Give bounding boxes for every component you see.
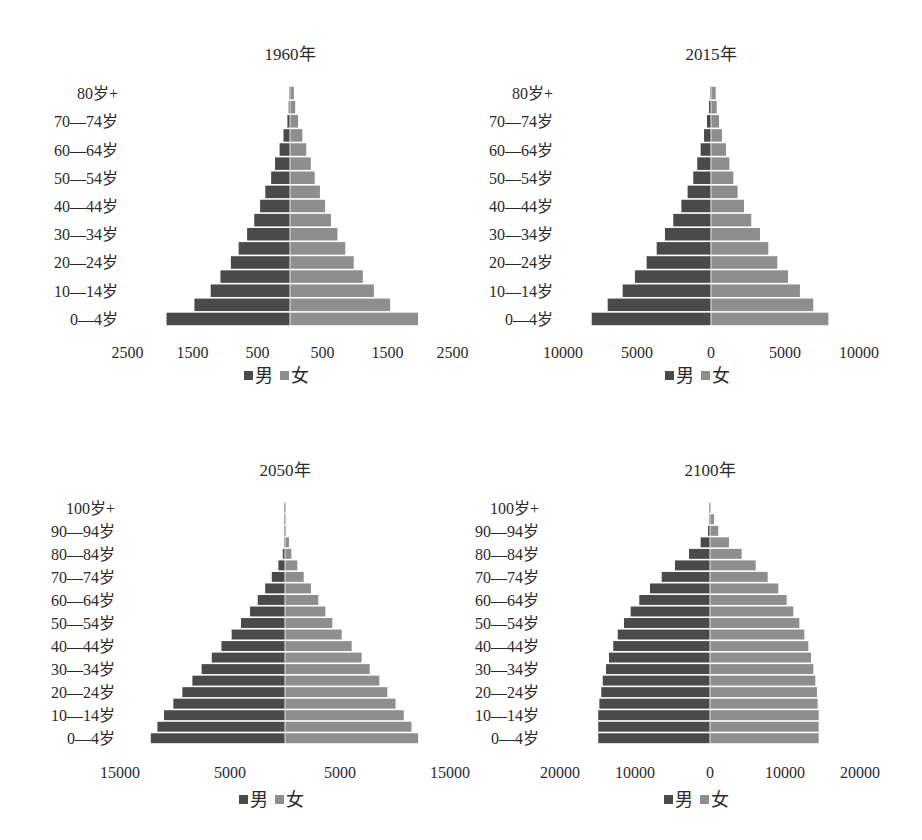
bar-female xyxy=(285,572,304,582)
bar-male xyxy=(258,595,285,605)
bar-male xyxy=(704,129,711,142)
bar-female xyxy=(290,101,295,114)
x-tick-label: 1500 xyxy=(372,344,404,361)
legend-swatch-female xyxy=(280,371,289,380)
bar-male xyxy=(271,172,290,185)
bar-female xyxy=(285,607,325,617)
age-group-label: 40—44岁 xyxy=(475,638,539,655)
bar-female xyxy=(710,514,714,524)
bar-female xyxy=(710,583,778,593)
bar-male xyxy=(194,299,290,312)
bar-male xyxy=(675,560,710,570)
legend-swatch-female xyxy=(700,795,709,804)
x-tick-label: 5000 xyxy=(769,344,801,361)
bar-male xyxy=(598,710,710,720)
bar-female xyxy=(710,549,742,559)
bar-male xyxy=(618,630,710,640)
x-tick-label: 5000 xyxy=(214,764,246,781)
x-tick-label: 5000 xyxy=(621,344,653,361)
age-group-label: 10—14岁 xyxy=(489,283,553,300)
bar-male xyxy=(688,186,711,199)
age-group-label: 50—54岁 xyxy=(475,615,539,632)
bar-male xyxy=(265,186,290,199)
age-group-label: 90—94岁 xyxy=(51,523,115,540)
age-group-label: 80岁+ xyxy=(77,85,118,102)
bar-male xyxy=(608,299,711,312)
age-group-label: 100岁+ xyxy=(66,500,115,517)
age-group-label: 60—64岁 xyxy=(475,592,539,609)
age-group-label: 30—34岁 xyxy=(489,226,553,243)
bar-male xyxy=(231,256,290,269)
bar-female xyxy=(285,653,362,663)
bar-female xyxy=(290,87,294,100)
age-group-label: 30—34岁 xyxy=(475,661,539,678)
bar-female xyxy=(711,157,729,170)
bar-male xyxy=(232,630,285,640)
bar-female xyxy=(711,115,719,128)
bar-female xyxy=(710,595,787,605)
age-group-label: 70—74岁 xyxy=(54,113,118,130)
bar-male xyxy=(665,228,711,241)
legend-swatch-female xyxy=(701,371,710,380)
legend: 男女 xyxy=(244,366,309,386)
legend: 男女 xyxy=(664,790,729,810)
legend-swatch-male xyxy=(239,795,248,804)
bar-male xyxy=(689,549,710,559)
legend-label-male: 男 xyxy=(676,366,694,386)
x-tick-label: 10000 xyxy=(765,764,805,781)
bar-male xyxy=(707,115,711,128)
bar-female xyxy=(710,653,811,663)
pyramid-svg: 2015年0—4岁10—14岁20—24岁30—34岁40—44岁50—54岁6… xyxy=(461,0,922,420)
bar-male xyxy=(701,143,711,156)
bar-male xyxy=(182,687,285,697)
bar-female xyxy=(290,284,374,297)
bar-male xyxy=(598,722,710,732)
age-group-label: 80—84岁 xyxy=(51,546,115,563)
bar-female xyxy=(711,284,800,297)
chart-title: 1960年 xyxy=(265,45,316,64)
bar-female xyxy=(710,526,718,536)
pyramid-svg: 2050年0—4岁10—14岁20—24岁30—34岁40—44岁50—54岁6… xyxy=(0,420,461,840)
bar-male xyxy=(192,676,285,686)
bar-female xyxy=(711,270,788,283)
bar-male xyxy=(157,722,285,732)
bar-female xyxy=(285,537,289,547)
bar-female xyxy=(710,560,756,570)
bar-female xyxy=(285,630,342,640)
bar-female xyxy=(290,172,315,185)
pyramid-svg: 2100年0—4岁10—14岁20—24岁30—34岁40—44岁50—54岁6… xyxy=(461,420,922,840)
bar-female xyxy=(290,115,298,128)
legend-label-male: 男 xyxy=(255,366,273,386)
bar-male xyxy=(173,699,285,709)
bar-male xyxy=(639,595,710,605)
age-group-label: 0—4岁 xyxy=(505,311,553,328)
bar-female xyxy=(711,143,726,156)
bar-female xyxy=(290,200,325,213)
age-group-label: 90—94岁 xyxy=(475,523,539,540)
bar-female xyxy=(711,129,722,142)
bar-female xyxy=(285,549,291,559)
bar-male xyxy=(701,537,710,547)
bar-male xyxy=(606,664,710,674)
age-group-label: 60—64岁 xyxy=(54,142,118,159)
bar-female xyxy=(285,710,404,720)
bar-male xyxy=(673,214,711,227)
bar-female xyxy=(710,699,818,709)
bar-female xyxy=(285,664,370,674)
age-group-label: 70—74岁 xyxy=(475,569,539,586)
age-group-label: 0—4岁 xyxy=(491,730,539,747)
bar-male xyxy=(280,143,290,156)
bar-male xyxy=(599,699,710,709)
bar-female xyxy=(710,537,729,547)
age-group-label: 60—64岁 xyxy=(489,142,553,159)
bar-female xyxy=(285,618,332,628)
bar-male xyxy=(631,607,710,617)
x-tick-label: 10000 xyxy=(839,344,879,361)
age-group-label: 80岁+ xyxy=(512,85,553,102)
age-group-label: 40—44岁 xyxy=(54,198,118,215)
bar-male xyxy=(693,172,711,185)
bar-male xyxy=(624,618,710,628)
bar-male xyxy=(151,733,285,743)
bar-female xyxy=(711,214,751,227)
bar-female xyxy=(285,722,412,732)
